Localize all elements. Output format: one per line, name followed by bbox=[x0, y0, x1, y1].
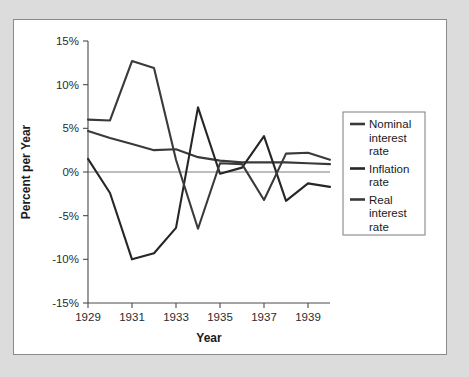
y-tick-label: -5% bbox=[59, 210, 79, 222]
x-tick-label: 1933 bbox=[163, 311, 189, 323]
y-tick-label: -10% bbox=[52, 253, 79, 265]
figure-root: 15%10%5%0%-5%-10%-15% 192919311933193519… bbox=[0, 0, 469, 377]
x-tick-label: 1937 bbox=[251, 311, 277, 323]
y-tick-label: 15% bbox=[56, 35, 79, 47]
legend-label-0: interest bbox=[369, 132, 408, 144]
legend-label-2: interest bbox=[369, 207, 408, 219]
series-line-nominal-interest-rate bbox=[88, 131, 330, 164]
x-tick-label: 1929 bbox=[75, 311, 101, 323]
line-chart: 15%10%5%0%-5%-10%-15% 192919311933193519… bbox=[0, 0, 469, 377]
x-axis-title: Year bbox=[196, 331, 222, 345]
legend-label-2: rate bbox=[369, 221, 389, 233]
y-tick-label: 10% bbox=[56, 79, 79, 91]
x-axis-ticks: 192919311933193519371939 bbox=[75, 303, 321, 323]
y-tick-label: 5% bbox=[62, 122, 79, 134]
series-line-inflation-rate bbox=[88, 107, 330, 259]
x-tick-label: 1935 bbox=[207, 311, 233, 323]
legend-label-1: Inflation bbox=[369, 163, 409, 175]
legend-label-0: Nominal bbox=[369, 118, 411, 130]
x-tick-label: 1931 bbox=[119, 311, 145, 323]
series-line-real-interest-rate bbox=[88, 61, 330, 229]
y-axis-ticks: 15%10%5%0%-5%-10%-15% bbox=[52, 35, 88, 309]
legend-label-0: rate bbox=[369, 145, 389, 157]
y-axis-title: Percent per Year bbox=[19, 124, 33, 219]
legend-label-2: Real bbox=[369, 194, 393, 206]
y-tick-label: 0% bbox=[62, 166, 79, 178]
legend-label-1: rate bbox=[369, 176, 389, 188]
chart-legend: NominalinterestrateInflationrateRealinte… bbox=[343, 112, 425, 235]
series-lines bbox=[88, 61, 330, 259]
x-tick-label: 1939 bbox=[295, 311, 321, 323]
y-tick-label: -15% bbox=[52, 297, 79, 309]
